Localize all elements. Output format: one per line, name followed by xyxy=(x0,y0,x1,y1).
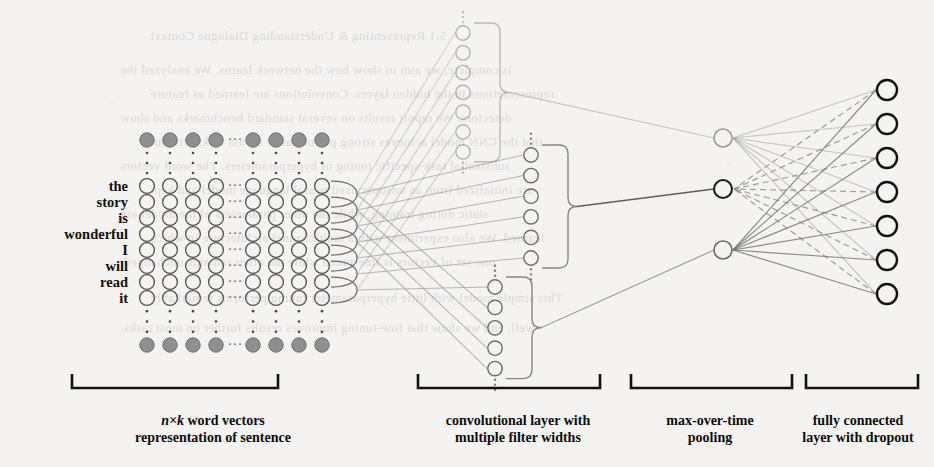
caption-sentence-matrix: n×k word vectors representation of sente… xyxy=(135,412,291,446)
vertical-dot xyxy=(321,172,324,175)
output-layer-nodes xyxy=(877,80,897,304)
embedding-pad-dot-bottom xyxy=(315,338,329,352)
embedding-matrix-dots: ······························ xyxy=(140,131,330,352)
embedding-cell xyxy=(209,227,224,242)
embedding-cell xyxy=(186,179,201,194)
embed-conv-link xyxy=(357,237,523,258)
row-ellipsis: ··· xyxy=(228,225,243,241)
conv-group-ellipsis-dot xyxy=(462,161,464,163)
embedding-cell xyxy=(140,259,155,274)
word-label-i: I xyxy=(0,242,128,259)
embedding-cell xyxy=(315,243,330,258)
vertical-dot xyxy=(192,320,195,323)
caption-pooling-bracket xyxy=(631,374,792,388)
caption-sentence-matrix-line1: n×k word vectors xyxy=(135,412,291,429)
vertical-dot xyxy=(321,320,324,323)
conv-feature-node xyxy=(456,145,470,159)
conv-feature-node xyxy=(524,210,538,224)
embedding-cell xyxy=(209,195,224,210)
embedding-cell xyxy=(246,211,261,226)
embedding-cell xyxy=(246,243,261,258)
word-label-story: story xyxy=(0,194,128,211)
embedding-cell xyxy=(140,291,155,306)
vertical-dot xyxy=(252,320,255,323)
embedding-cell xyxy=(246,195,261,210)
embedding-cell xyxy=(140,195,155,210)
vertical-dot xyxy=(275,310,278,313)
embedding-cell xyxy=(315,227,330,242)
embedding-cell xyxy=(269,227,284,242)
embedding-pad-dot-bottom xyxy=(209,338,223,352)
embedding-cell xyxy=(186,291,201,306)
fully-connected-link xyxy=(733,124,876,250)
embedding-cell xyxy=(315,211,330,226)
vertical-dot xyxy=(252,172,255,175)
fully-connected-link xyxy=(733,250,876,294)
vertical-dot xyxy=(169,152,172,155)
embedding-cell xyxy=(209,243,224,258)
word-label-it: it xyxy=(0,290,128,307)
vertical-dot xyxy=(321,331,324,334)
caption-pooling-line2: pooling xyxy=(666,429,753,446)
embedding-cell xyxy=(140,211,155,226)
embedding-cell xyxy=(246,227,261,242)
caption-sentence-matrix-line2: representation of sentence xyxy=(135,429,291,446)
output-node-7 xyxy=(877,284,897,304)
row-ellipsis: ··· xyxy=(228,177,243,193)
embedding-cell xyxy=(209,291,224,306)
conv-group-ellipsis-dot xyxy=(462,16,464,18)
embedding-cell xyxy=(292,195,307,210)
embedding-cell xyxy=(209,259,224,274)
conv-group-ellipsis-dot xyxy=(494,265,496,267)
conv-feature-node xyxy=(456,26,470,40)
embedding-cell xyxy=(163,243,178,258)
vertical-dot xyxy=(169,310,172,313)
fully-connected-link xyxy=(733,138,876,226)
conv-group-ellipsis-dot xyxy=(494,270,496,272)
conv-group-ellipsis-dot xyxy=(530,137,532,139)
caption-pooling-line1: max-over-time xyxy=(666,412,753,429)
word-label-wonderful: wonderful xyxy=(0,226,128,243)
embedding-pad-dot-top xyxy=(209,133,223,147)
caption-conv-layer-bracket xyxy=(418,374,600,388)
conv-feature-node xyxy=(456,105,470,119)
embedding-cell xyxy=(246,179,261,194)
conv-group-ellipsis-dot xyxy=(530,268,532,270)
embedding-cell xyxy=(186,195,201,210)
embedding-pad-dot-top xyxy=(140,133,154,147)
embedding-pad-dot-top xyxy=(163,133,177,147)
conv-group-ellipsis-dot xyxy=(494,384,496,386)
vertical-dot xyxy=(146,172,149,175)
embedding-cell xyxy=(140,179,155,194)
vertical-dot xyxy=(169,162,172,165)
dropout-link xyxy=(734,90,876,189)
caption-pooling: max-over-time pooling xyxy=(666,412,753,446)
embedding-cell xyxy=(269,291,284,306)
architecture-diagram: ······························ xyxy=(0,0,934,467)
embedding-pad-dot-bottom xyxy=(163,338,177,352)
output-node-5 xyxy=(877,216,897,236)
output-node-2 xyxy=(877,114,897,134)
embedding-pad-dot-bottom xyxy=(186,338,200,352)
vertical-dot xyxy=(146,331,149,334)
conv-group-ellipsis-dot xyxy=(530,132,532,134)
caption-output-bracket xyxy=(806,374,918,388)
embedding-cell xyxy=(209,275,224,290)
vertical-dot xyxy=(169,331,172,334)
conv-feature-node xyxy=(524,251,538,265)
vertical-dot xyxy=(215,331,218,334)
embedding-cell xyxy=(292,179,307,194)
conv-feature-node xyxy=(456,125,470,139)
conv-to-pooling-connections xyxy=(509,92,714,327)
vertical-dot xyxy=(169,320,172,323)
output-node-6 xyxy=(877,250,897,270)
embedding-pad-dot-top xyxy=(246,133,260,147)
word-label-will: will xyxy=(0,258,128,275)
embedding-cell xyxy=(186,243,201,258)
word-label-read: read xyxy=(0,274,128,291)
conv-feature-node xyxy=(488,280,502,294)
embedding-to-conv-connections xyxy=(357,33,523,369)
embedding-cell xyxy=(209,179,224,194)
embed-conv-link xyxy=(357,194,487,307)
vertical-dot xyxy=(215,162,218,165)
